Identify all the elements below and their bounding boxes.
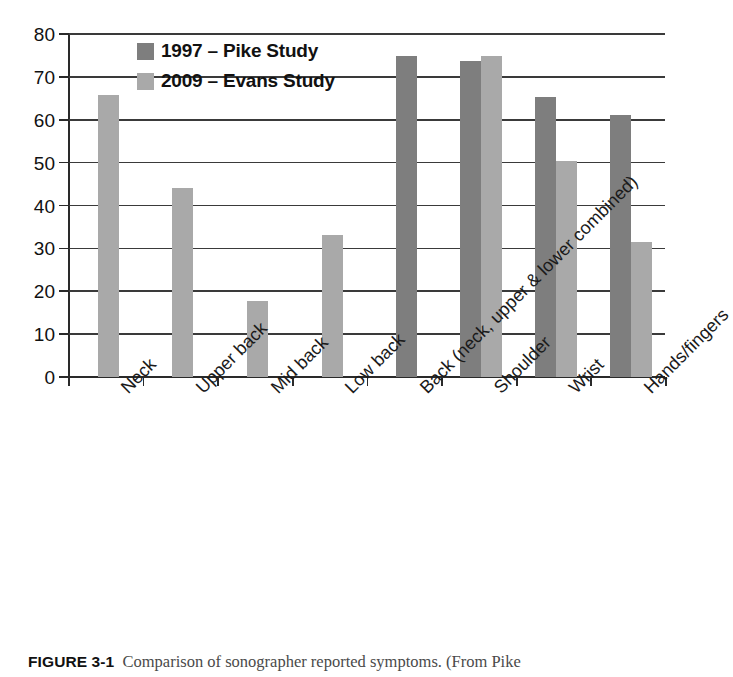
y-axis-tick-label: 80 [34, 25, 55, 44]
bar-group-inner [98, 34, 119, 377]
legend-swatch-icon-evans [137, 73, 154, 90]
y-axis-tick-label: 50 [34, 153, 55, 172]
legend-swatch-icon-pike [137, 43, 154, 60]
y-axis-tick-label: 20 [34, 282, 55, 301]
figure-caption: FIGURE 3-1 Comparison of sonographer rep… [28, 652, 650, 677]
caption-body-text: Comparison of sonographer reported sympt… [123, 652, 521, 671]
legend-label-pike: 1997 – Pike Study [161, 40, 318, 62]
bar-group-inner [535, 34, 577, 377]
x-axis-tick [68, 377, 70, 386]
legend-label-evans: 2009 – Evans Study [161, 70, 335, 92]
y-axis-tick-label: 70 [34, 67, 55, 86]
legend-item-pike-study: 1997 – Pike Study [137, 40, 335, 62]
y-axis-tick-label: 0 [44, 368, 55, 387]
caption-text: Comparison of sonographer reported sympt… [114, 652, 521, 671]
bar-group [68, 34, 143, 377]
bar-2009-evans-study [631, 242, 652, 377]
y-axis-tick-label: 40 [34, 196, 55, 215]
bar-1997-pike-study [610, 115, 631, 377]
bar-2009-evans-study [322, 235, 343, 377]
chart-legend: 1997 – Pike Study 2009 – Evans Study [137, 40, 335, 100]
figure-number: FIGURE 3-1 [28, 653, 114, 670]
bar-1997-pike-study [396, 56, 417, 377]
y-axis-tick-label: 60 [34, 110, 55, 129]
bar-group [367, 34, 442, 377]
bar-2009-evans-study [98, 95, 119, 377]
y-axis-tick-label: 30 [34, 239, 55, 258]
bar-group-inner [396, 34, 417, 377]
y-axis-tick-label: 10 [34, 325, 55, 344]
legend-item-evans-study: 2009 – Evans Study [137, 70, 335, 92]
bar-group [516, 34, 591, 377]
bar-2009-evans-study [172, 188, 193, 377]
